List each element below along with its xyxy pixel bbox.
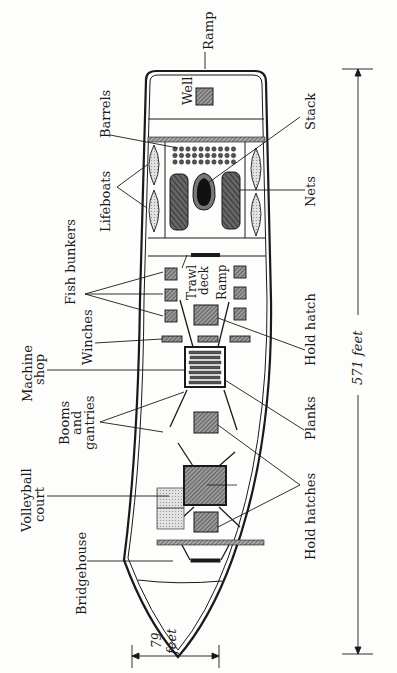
boat-deck	[148, 142, 266, 256]
label-well: Well	[180, 77, 195, 105]
label-beam-unit: feet	[164, 628, 179, 655]
forward-rail	[157, 540, 264, 545]
label-hold-hatch: Hold hatch	[303, 293, 318, 366]
label-deck: deck	[197, 265, 211, 295]
label-bridgehouse: Bridgehouse	[74, 531, 89, 615]
label-ramp-top: Ramp	[201, 12, 216, 51]
label-gantries: gantries	[82, 396, 97, 450]
net-pile-left	[170, 174, 188, 230]
trawl-ramp-bar	[191, 253, 220, 257]
label-beam-value: 79	[150, 632, 164, 648]
hold-hatch-forward	[194, 512, 218, 532]
barrels	[173, 147, 236, 164]
label-court: court	[32, 486, 47, 522]
label-planks: Planks	[303, 396, 318, 440]
hold-hatch-large	[184, 466, 226, 505]
hold-hatch-mid	[194, 412, 218, 433]
bridgehouse	[138, 545, 229, 583]
stern-rail	[148, 137, 265, 142]
volleyball-court	[157, 488, 184, 529]
well-hatch	[196, 88, 213, 105]
lifeboat-right-1	[251, 148, 261, 190]
label-stack: Stack	[303, 93, 318, 130]
label-lifeboats: Lifeboats	[98, 171, 113, 232]
lifeboat-right-2	[251, 193, 261, 236]
label-nets: Nets	[303, 176, 318, 207]
lifeboat-left-2	[149, 190, 159, 232]
hold-hatch-center	[194, 305, 218, 325]
lifeboat-left-1	[149, 145, 159, 185]
label-winches: Winches	[80, 309, 95, 365]
label-fish-bunkers: Fish bunkers	[63, 219, 78, 305]
ship-deck-plan: Ramp Well Barrels Stack Lifeboats Nets F…	[0, 0, 397, 673]
net-pile-right	[222, 172, 240, 229]
label-length: 571 feet	[350, 330, 365, 385]
label-shop: shop	[32, 354, 47, 385]
planks	[189, 351, 221, 384]
winches	[162, 336, 250, 342]
label-hold-hatches: Hold hatches	[303, 473, 318, 560]
label-ramp-mid: Ramp	[215, 264, 229, 300]
label-barrels: Barrels	[98, 90, 113, 138]
